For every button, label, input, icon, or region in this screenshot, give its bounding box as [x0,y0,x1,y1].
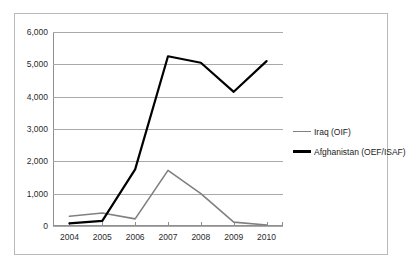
series-lines [53,32,283,226]
x-tick-label: 2006 [126,232,145,242]
legend-label-iraq: Iraq (OIF) [314,127,351,137]
legend-line-swatch-afghanistan [293,150,311,152]
x-tick-label: 2010 [257,232,276,242]
y-tick-label: 3,000 [27,124,48,134]
x-tick-label: 2008 [191,232,210,242]
series-line-iraq [69,170,266,225]
y-tick-label: 1,000 [27,189,48,199]
y-tick-label: 0 [43,221,48,231]
chart-legend: Iraq (OIF) Afghanistan (OEF/ISAF) [293,126,398,166]
x-tick-label: 2005 [93,232,112,242]
series-line-afghanistan [69,56,266,223]
chart-figure: 01,0002,0003,0004,0005,0006,000 20042005… [14,13,388,255]
y-tick-label: 5,000 [27,59,48,69]
y-tick-label: 6,000 [27,27,48,37]
legend-label-afghanistan: Afghanistan (OEF/ISAF) [314,147,406,157]
gridline [53,226,283,227]
x-tick-label: 2007 [159,232,178,242]
x-tick-label: 2004 [60,232,79,242]
legend-line-swatch-iraq [293,131,311,133]
legend-item-iraq[interactable]: Iraq (OIF) [293,126,398,137]
legend-item-afghanistan[interactable]: Afghanistan (OEF/ISAF) [293,146,398,157]
y-tick-label: 4,000 [27,92,48,102]
plot-area: 01,0002,0003,0004,0005,0006,000 20042005… [53,32,283,226]
x-tick-label: 2009 [224,232,243,242]
y-tick-label: 2,000 [27,156,48,166]
